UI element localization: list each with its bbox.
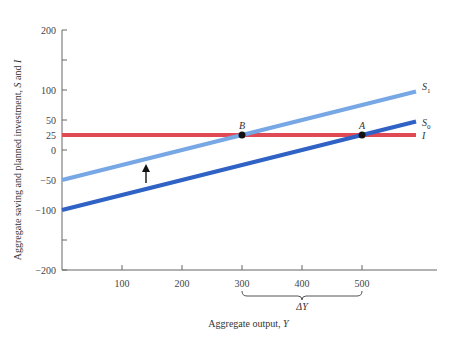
y-axis-title: Aggregate saving and planned investment,…	[12, 59, 23, 260]
y-tick-label: 50	[46, 115, 56, 126]
point-label-a: A	[358, 120, 366, 131]
x-tick-label: 300	[235, 278, 250, 289]
y-tick-label: −200	[35, 265, 56, 276]
point-a	[359, 132, 366, 139]
y-tick-label: 200	[41, 25, 56, 36]
arrow-head-icon	[142, 164, 150, 172]
y-tick-label: 100	[41, 85, 56, 96]
x-axis-title: Aggregate output, Y	[208, 318, 290, 329]
y-tick-label: 0	[51, 145, 56, 156]
series-label-i: I	[421, 130, 426, 141]
delta-y-brace	[242, 291, 362, 300]
series-label-s1: S1	[422, 81, 431, 95]
y-tick-label: 25	[46, 130, 56, 141]
y-tick-label: −100	[35, 205, 56, 216]
series-label-s0: S0	[422, 117, 431, 131]
x-tick-label: 100	[115, 278, 130, 289]
x-tick-label: 500	[355, 278, 370, 289]
chart: 20010050250−50−100−200100200300400500IS1…	[0, 0, 453, 340]
x-tick-label: 200	[175, 278, 190, 289]
y-tick-label: −50	[40, 175, 56, 186]
point-b	[239, 132, 246, 139]
delta-y-label: ΔY	[295, 301, 309, 312]
x-tick-label: 400	[295, 278, 310, 289]
point-label-b: B	[239, 120, 245, 131]
